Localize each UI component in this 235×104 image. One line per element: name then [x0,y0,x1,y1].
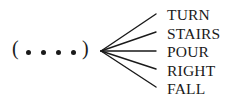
word-stairs: STAIRS [167,25,220,44]
connector-line-4 [101,51,156,69]
word-list: TURN STAIRS POUR RIGHT FALL [167,6,220,99]
word-fall: FALL [167,80,220,99]
word-right: RIGHT [167,62,220,81]
connector-line-1 [101,14,156,51]
word-pour: POUR [167,43,220,62]
connector-line-5 [101,51,156,87]
word-fan-diagram: ( ) TURN STAIRS POUR RIGHT FALL [0,0,235,104]
connector-line-2 [101,32,156,51]
word-turn: TURN [167,6,220,25]
